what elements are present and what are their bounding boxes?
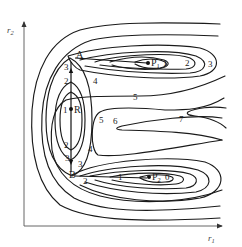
contour-label-3-bot: 3	[65, 153, 70, 163]
point-a-label: A	[76, 49, 84, 60]
contour-label-5-left: 5	[99, 115, 104, 125]
contour-label-p2-0: 0	[165, 172, 170, 182]
point-r-dot	[69, 107, 73, 111]
contour-label-7: 7	[179, 114, 184, 124]
arrow-up-icon	[69, 68, 73, 73]
contour-label-4-bot: 4	[88, 144, 93, 154]
contour-label-2-top: 2	[64, 76, 69, 86]
contour-label-p1-1: 1	[163, 58, 168, 68]
contour-label-r-1: 1	[63, 105, 68, 115]
point-r-label: R	[74, 104, 81, 115]
contour-label-p2-1: 1	[118, 172, 123, 182]
contour-label-5-mid: 5	[133, 92, 138, 102]
contour-label-2-bot: 2	[64, 140, 69, 150]
contour-diagram: r2 r1	[0, 0, 242, 247]
x-axis-label: r1	[208, 233, 215, 244]
contour-label-2-near-b: 2	[83, 176, 88, 186]
axes: r2 r1	[7, 22, 222, 244]
contour-label-6: 6	[113, 116, 118, 126]
point-p2-dot	[147, 175, 151, 179]
contour-label-3-near-b: 3	[78, 159, 83, 169]
point-p1-dot	[146, 61, 150, 65]
point-b-label: B	[69, 169, 76, 180]
contour-label-4-top: 4	[93, 76, 98, 86]
contour-label-3-top: 3	[64, 62, 69, 72]
contour-label-p1-3: 3	[208, 59, 213, 69]
y-axis-label: r2	[7, 25, 15, 36]
contour-lines	[32, 23, 226, 220]
contour-label-p1-2: 2	[185, 58, 190, 68]
